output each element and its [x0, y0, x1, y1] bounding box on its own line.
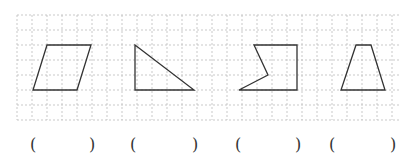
answer-open-paren: (: [235, 135, 241, 155]
trapezoid-shape: [341, 45, 385, 90]
grid-figure: [0, 0, 413, 159]
dashed-grid: [17, 15, 400, 120]
answer-close-paren: ): [192, 135, 198, 155]
answer-open-paren: (: [130, 135, 136, 155]
answer-open-paren: (: [329, 135, 335, 155]
answer-close-paren: ): [89, 135, 95, 155]
right-triangle-shape: [135, 45, 194, 90]
answer-open-paren: (: [30, 135, 36, 155]
answer-close-paren: ): [295, 135, 301, 155]
answer-close-paren: ): [390, 135, 396, 155]
concave-pentagon-shape: [239, 45, 297, 90]
